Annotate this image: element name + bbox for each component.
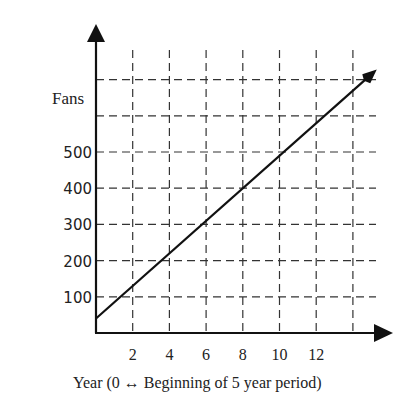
y-axis-arrow-icon (87, 24, 105, 42)
line-chart: 100200300400500 24681012 Fans Year (0 ↔ … (0, 0, 416, 410)
x-tick-label: 4 (165, 346, 173, 363)
x-axis-arrow-icon (374, 324, 393, 342)
y-tick-label: 400 (63, 180, 92, 198)
data-series (96, 69, 377, 318)
x-tick-label: 8 (239, 346, 247, 363)
x-axis-label: Year (0 ↔ Beginning of 5 year period) (73, 374, 322, 392)
y-tick-label: 200 (63, 253, 92, 271)
y-tick-label: 100 (63, 289, 92, 307)
x-tick-label: 2 (129, 346, 137, 363)
y-tick-label: 300 (63, 216, 92, 234)
grid (96, 50, 376, 333)
y-tick-label: 500 (63, 144, 92, 162)
x-tick-label: 10 (272, 346, 288, 363)
y-axis-label: Fans (52, 89, 84, 108)
x-tick-labels: 24681012 (129, 346, 325, 363)
x-tick-label: 6 (202, 346, 210, 363)
series-line (96, 76, 369, 318)
y-tick-labels: 100200300400500 (63, 144, 92, 307)
x-tick-label: 12 (308, 346, 324, 363)
